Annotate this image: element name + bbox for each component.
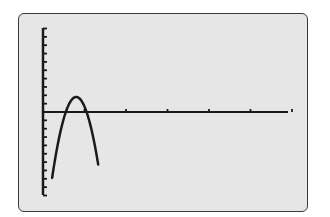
parabola-curve [52, 97, 98, 178]
graph-plot [0, 0, 330, 217]
